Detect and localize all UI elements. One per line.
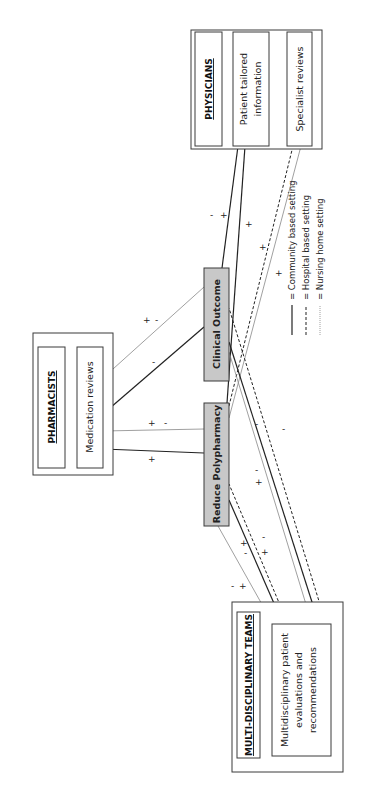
patient-tailored-info-text: information <box>252 62 263 117</box>
sign-minus: - <box>244 548 247 558</box>
sign-plus: + <box>240 538 248 548</box>
sign-plus: + <box>239 581 247 591</box>
sign-minus: - <box>210 210 213 220</box>
legend-hospital-label: = Hospital based setting <box>301 195 311 300</box>
reduce-polypharmacy-label: Reduce Polypharmacy <box>211 404 222 523</box>
sign-minus: - <box>152 357 155 367</box>
mdt-evaluations-text: Multidisciplinary patient <box>279 633 290 747</box>
sign-minus: - <box>164 418 167 428</box>
line-mdt-to-clinical-hospital <box>229 308 326 624</box>
sign-plus: + <box>259 242 267 252</box>
line-medication-to-clinical-community <box>103 327 204 414</box>
sign-annotations: - + + + + + - - + - + - - - + + - - + - … <box>143 210 285 591</box>
physicians-title: PHYSICIANS <box>204 58 214 119</box>
legend-community-label: = Community based setting <box>287 180 297 300</box>
patient-tailored-info-text: Patient tailored <box>238 53 249 125</box>
sign-minus: - <box>155 315 158 325</box>
medication-reviews-text: Medication reviews <box>84 361 95 452</box>
mdt-title: MULTI-DISCIPLINARY TEAMS <box>244 614 254 756</box>
sign-minus: - <box>282 424 285 434</box>
physicians-group: PHYSICIANS Patient tailored information … <box>191 30 322 149</box>
sign-plus: + <box>255 477 263 487</box>
sign-plus: + <box>148 454 156 464</box>
mdt-evaluations-text: evaluations and <box>293 652 304 728</box>
diagram-canvas: - + + + + + - - + - + - - - + + - - + - … <box>0 0 382 798</box>
sign-plus: + <box>245 219 253 229</box>
sign-minus: - <box>255 465 258 475</box>
line-medication-to-polypharmacy-nursing <box>103 429 204 431</box>
sign-plus: + <box>148 418 156 428</box>
sign-plus: + <box>143 315 151 325</box>
sign-plus: + <box>275 268 283 278</box>
mdt-evaluations-text: recommendations <box>307 647 318 733</box>
sign-plus: + <box>220 210 228 220</box>
specialist-reviews-text: Specialist reviews <box>294 46 305 131</box>
pharmacists-group: PHARMACISTS Medication reviews <box>33 333 113 475</box>
pharmacists-title: PHARMACISTS <box>47 370 57 443</box>
clinical-outcome-label: Clinical Outcome <box>211 279 222 369</box>
line-patient-info-to-clinical-community <box>222 146 238 268</box>
line-medication-to-polypharmacy-community <box>103 449 204 453</box>
sign-plus: + <box>261 547 269 557</box>
outcomes-group: Clinical Outcome Reduce Polypharmacy <box>204 268 229 526</box>
mdt-group: MULTI-DISCIPLINARY TEAMS Multidisciplina… <box>232 602 343 772</box>
legend-nursing-label: = Nursing home setting <box>315 198 325 300</box>
sign-minus: - <box>262 532 265 542</box>
legend: = Community based setting = Hospital bas… <box>287 180 325 335</box>
sign-minus: - <box>255 419 258 429</box>
sign-minus: - <box>231 581 234 591</box>
